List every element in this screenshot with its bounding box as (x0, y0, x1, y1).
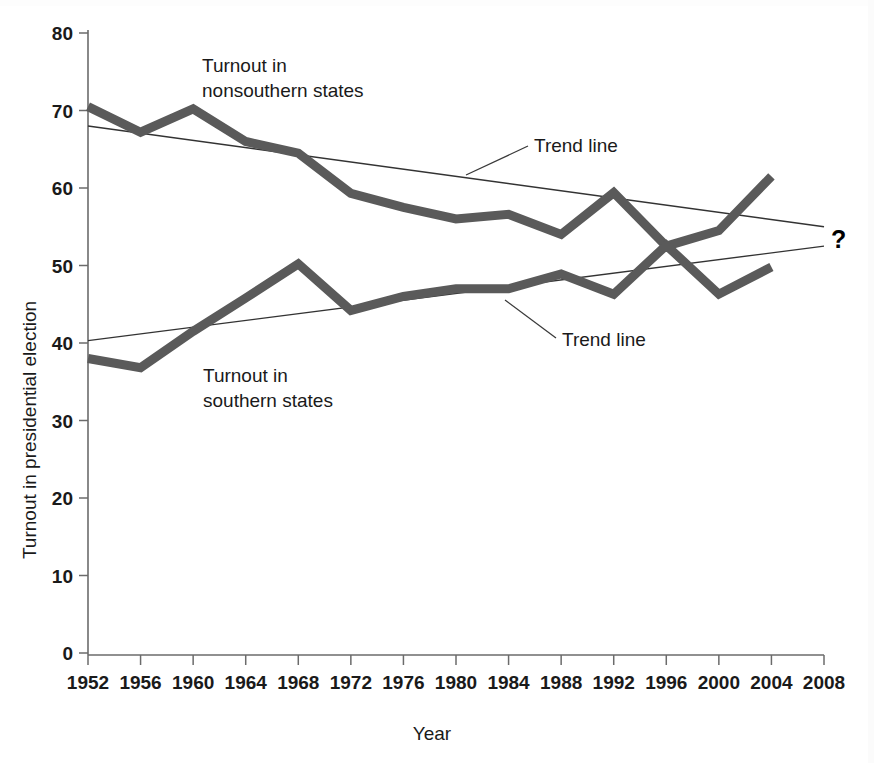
question-mark-annotation: ? (831, 225, 846, 253)
series-line (88, 245, 771, 367)
x-tick-label: 1976 (382, 672, 424, 693)
x-axis-title: Year (413, 723, 452, 744)
x-axis-tick-labels: 1952195619601964196819721976198019841988… (67, 672, 845, 693)
y-axis-tick-labels: 01020304050607080 (52, 23, 73, 664)
y-axis-title: Turnout in presidential election (19, 301, 40, 559)
x-axis-ticks (88, 655, 824, 665)
turnout-line-chart: 01020304050607080 1952195619601964196819… (0, 0, 874, 763)
x-tick-label: 1996 (645, 672, 687, 693)
data-series-group (88, 107, 771, 368)
chart-container: 01020304050607080 1952195619601964196819… (0, 0, 874, 763)
x-tick-label: 2000 (698, 672, 740, 693)
annotation-leaders (466, 146, 556, 338)
y-tick-label: 80 (52, 23, 73, 44)
y-tick-label: 40 (52, 333, 73, 354)
y-tick-label: 0 (62, 643, 73, 664)
southern-label-line2: southern states (203, 390, 333, 411)
nonsouthern-label-line2: nonsouthern states (202, 80, 364, 101)
x-tick-label: 1960 (172, 672, 214, 693)
nonsouthern-label-line1: Turnout in (202, 55, 287, 76)
x-tick-label: 1964 (225, 672, 268, 693)
x-tick-label: 2004 (750, 672, 793, 693)
x-tick-label: 1956 (119, 672, 161, 693)
southern-label-line1: Turnout in (203, 365, 288, 386)
x-tick-label: 1972 (330, 672, 372, 693)
y-tick-label: 20 (52, 488, 73, 509)
y-tick-label: 60 (52, 178, 73, 199)
y-axis-ticks (79, 33, 88, 653)
trend-line-label-upper: Trend line (534, 135, 618, 156)
axes-group (88, 30, 824, 655)
x-tick-label: 1984 (487, 672, 530, 693)
y-tick-label: 10 (52, 566, 73, 587)
trend-lower-leader-line (505, 300, 556, 338)
y-tick-label: 30 (52, 411, 73, 432)
trend-line-label-lower: Trend line (562, 329, 646, 350)
x-tick-label: 1980 (435, 672, 477, 693)
series-line (88, 107, 771, 247)
trend-line (88, 126, 824, 227)
x-tick-label: 1952 (67, 672, 109, 693)
trend-upper-leader-line (466, 146, 528, 175)
x-tick-label: 1988 (540, 672, 582, 693)
y-tick-label: 50 (52, 256, 73, 277)
x-tick-label: 1968 (277, 672, 319, 693)
x-tick-label: 1992 (593, 672, 635, 693)
x-tick-label: 2008 (803, 672, 845, 693)
y-tick-label: 70 (52, 101, 73, 122)
